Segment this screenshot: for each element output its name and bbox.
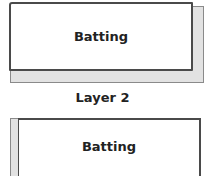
layer1-batting-label: Batting — [74, 29, 128, 44]
layer2-batting-box: Batting — [18, 118, 201, 176]
layer2-batting-label: Batting — [82, 139, 136, 154]
layer1-batting-box: Batting — [9, 2, 193, 71]
layer2-caption: Layer 2 — [0, 90, 205, 105]
